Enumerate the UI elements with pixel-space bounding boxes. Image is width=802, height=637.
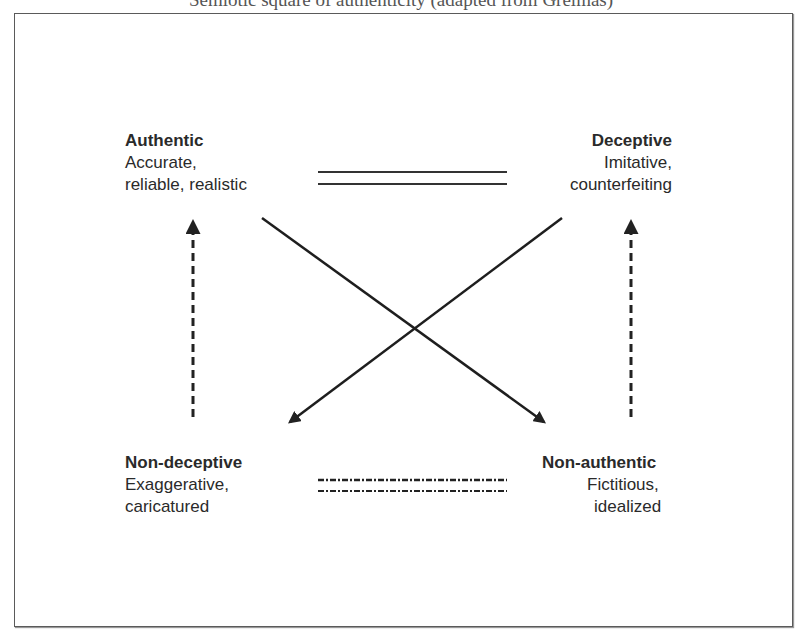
node-desc-line: counterfeiting [570,174,672,196]
node-desc-line: idealized [542,496,661,518]
node-title: Non-authentic [542,452,661,474]
node-title: Deceptive [570,130,672,152]
semiotic-square-diagram [0,0,802,637]
node-non-deceptive: Non-deceptive Exaggerative, caricatured [125,452,242,518]
node-non-authentic: Non-authentic Fictitious, idealized [542,452,661,518]
node-desc-line: Accurate, [125,152,247,174]
authentic-to-nonauthentic-arrow [262,218,544,422]
node-title: Authentic [125,130,247,152]
subcontrary-double-dashdot-line [318,480,507,491]
deceptive-to-nondeceptive-arrow [290,218,562,422]
node-title: Non-deceptive [125,452,242,474]
node-desc-line: Imitative, [570,152,672,174]
node-desc-line: Fictitious, [542,474,661,496]
contrary-double-line [318,172,507,184]
node-deceptive: Deceptive Imitative, counterfeiting [570,130,672,196]
node-authentic: Authentic Accurate, reliable, realistic [125,130,247,196]
node-desc-line: reliable, realistic [125,174,247,196]
node-desc-line: Exaggerative, [125,474,242,496]
node-desc-line: caricatured [125,496,242,518]
